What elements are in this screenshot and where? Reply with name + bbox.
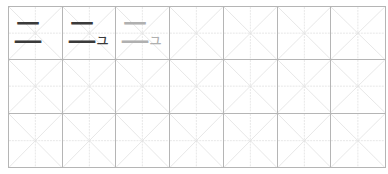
grid-cell xyxy=(170,114,224,167)
guide-lines-icon xyxy=(170,114,223,167)
grid-cell xyxy=(278,114,332,167)
guide-lines-icon xyxy=(9,114,62,167)
grid-cell xyxy=(331,114,385,167)
guide-lines-icon xyxy=(63,114,116,167)
grid-cell xyxy=(63,60,117,113)
grid-cell xyxy=(224,7,278,60)
calligraphy-practice-grid: 二 二ュ 二ュ xyxy=(8,6,386,168)
guide-lines-icon xyxy=(63,60,116,112)
guide-lines-icon xyxy=(278,7,331,59)
guide-lines-icon xyxy=(224,7,277,59)
grid-cell xyxy=(116,114,170,167)
grid-cell xyxy=(63,114,117,167)
practice-character: 二 xyxy=(9,7,62,59)
grid-cell xyxy=(170,7,224,60)
grid-cell xyxy=(278,60,332,113)
character-main: 二 xyxy=(120,18,148,48)
character-main: 二 xyxy=(67,18,95,48)
grid-cell: 二 xyxy=(9,7,63,60)
guide-lines-icon xyxy=(9,60,62,112)
grid-cell xyxy=(9,60,63,113)
grid-cell xyxy=(278,7,332,60)
grid-cell: 二ュ xyxy=(63,7,117,60)
guide-lines-icon xyxy=(170,60,223,112)
grid-cell xyxy=(224,114,278,167)
guide-lines-icon xyxy=(278,60,331,112)
grid-cell xyxy=(116,60,170,113)
guide-lines-icon xyxy=(331,114,385,167)
grid-cell xyxy=(224,60,278,113)
character-stroke: ュ xyxy=(148,32,163,47)
grid-cell xyxy=(331,60,385,113)
trace-character: 二ュ xyxy=(116,7,169,59)
grid-cell xyxy=(9,114,63,167)
guide-lines-icon xyxy=(224,114,277,167)
practice-character: 二ュ xyxy=(63,7,116,59)
guide-lines-icon xyxy=(116,60,169,112)
grid-cell xyxy=(331,7,385,60)
guide-lines-icon xyxy=(278,114,331,167)
grid-cell: 二ュ xyxy=(116,7,170,60)
character-stroke: ュ xyxy=(95,32,110,47)
guide-lines-icon xyxy=(331,60,385,112)
guide-lines-icon xyxy=(116,114,169,167)
guide-lines-icon xyxy=(170,7,223,59)
grid-cell xyxy=(170,60,224,113)
guide-lines-icon xyxy=(224,60,277,112)
character-main: 二 xyxy=(13,18,41,48)
guide-lines-icon xyxy=(331,7,385,59)
